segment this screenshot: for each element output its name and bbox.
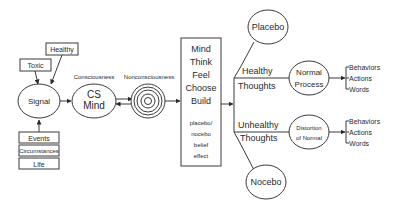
output-bottom-actions: Actions	[349, 129, 372, 136]
mind-flow-diagram: Toxic Healthy Signal Events Circumstance…	[0, 0, 398, 214]
healthy-box: Healthy	[46, 43, 78, 55]
healthy-thoughts-line-1: Healthy	[242, 66, 273, 76]
process-label: Process	[295, 80, 324, 89]
normal-label: Normal	[296, 68, 322, 77]
toxic-box: Toxic	[20, 59, 51, 71]
mind-box-line-5: Build	[191, 96, 211, 106]
placebo-label: Placebo	[252, 22, 285, 32]
normal-process-node: Normal Process	[289, 61, 329, 95]
events-label: Events	[28, 135, 50, 142]
nonconsciousness-label: Nonconsciousness	[124, 74, 174, 80]
distortion-node: Distortion of Normal	[289, 115, 329, 149]
nonconscious-node	[131, 84, 165, 118]
nocebo-label: Nocebo	[250, 177, 281, 187]
consciousness-label: Consciousness	[74, 74, 115, 80]
healthy-label: Healthy	[50, 46, 74, 54]
output-top-actions: Actions	[349, 75, 372, 82]
circumstances-box: Circumstances	[19, 145, 59, 156]
events-box: Events	[19, 132, 59, 143]
mind-box-sub-1: placebo/	[190, 120, 213, 126]
signal-node: Signal	[18, 84, 60, 118]
life-label: Life	[33, 161, 44, 168]
mind-process-box: Mind Think Feel Choose Build placebo/ no…	[181, 38, 221, 166]
outputs-bottom: Behaviors Actions Words	[346, 118, 381, 147]
circumstances-label: Circumstances	[19, 148, 59, 154]
cs-label: CS	[87, 89, 101, 100]
output-bottom-behaviors: Behaviors	[349, 118, 381, 125]
unhealthy-thoughts-line-1: Unhealthy	[238, 120, 279, 130]
branch-lines	[234, 42, 289, 170]
of-normal-label: of Normal	[296, 135, 322, 141]
mind-label: Mind	[83, 100, 105, 111]
signal-label: Signal	[28, 97, 50, 106]
life-box: Life	[19, 158, 59, 169]
mind-box-line-3: Feel	[192, 70, 210, 80]
toxic-arrow	[35, 71, 38, 84]
output-top-words: Words	[349, 86, 370, 93]
mind-box-sub-4: effect	[194, 153, 209, 159]
nocebo-node: Nocebo	[246, 165, 286, 199]
mind-box-line-2: Think	[190, 57, 213, 67]
outputs-top: Behaviors Actions Words	[346, 64, 381, 93]
toxic-label: Toxic	[28, 62, 44, 69]
cs-mind-node: CS Mind	[72, 84, 116, 118]
distortion-label: Distortion	[296, 125, 321, 131]
mind-box-line-1: Mind	[191, 44, 211, 54]
mind-box-sub-2: nocebo	[191, 131, 211, 137]
mind-box-sub-3: belief	[194, 142, 209, 148]
healthy-arrow	[51, 55, 62, 84]
unhealthy-thoughts-line-2: Thoughts	[240, 133, 278, 143]
output-top-behaviors: Behaviors	[349, 64, 381, 71]
mind-box-line-4: Choose	[185, 83, 216, 93]
healthy-thoughts-line-2: Thoughts	[238, 81, 276, 91]
placebo-node: Placebo	[248, 10, 288, 44]
output-bottom-words: Words	[349, 140, 370, 147]
